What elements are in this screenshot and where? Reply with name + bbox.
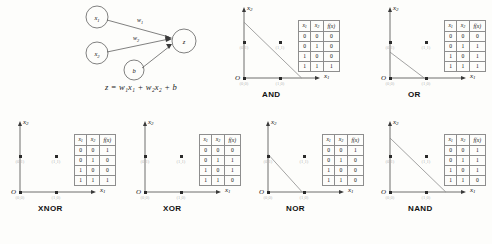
cell-x1: 1 — [323, 166, 335, 176]
y-axis-arrow — [266, 121, 270, 126]
table-row: 100 — [299, 52, 340, 62]
cell-x2: 0 — [457, 146, 469, 156]
cell-x2: 0 — [457, 52, 469, 62]
table-row: 101 — [200, 166, 241, 176]
x-axis-label: x1 — [348, 186, 354, 194]
th-fx: f(x) — [469, 21, 485, 32]
cell-x1: 1 — [445, 62, 457, 72]
table-row: 000 — [200, 146, 241, 156]
gate-panel-xor: x2x1O(0,0)(1,0)(0,1)(1,1)x1x2f(x)0000111… — [133, 120, 241, 230]
cell-x2: 1 — [335, 156, 347, 166]
th-x2: x2 — [212, 135, 224, 146]
table-row: 000 — [445, 32, 486, 42]
cell-x2: 0 — [335, 146, 347, 156]
cell-fx: 1 — [469, 62, 485, 72]
y-axis-arrow — [388, 7, 392, 12]
cell-fx: 1 — [469, 52, 485, 62]
table-row: 101 — [445, 52, 486, 62]
edge-label-w2: w2 — [133, 35, 140, 43]
formula-text: z = w₁x₁ + w₂x₂ + b — [105, 82, 177, 92]
data-point — [180, 155, 183, 158]
perceptron-formula: z = w₁x₁ + w₂x₂ + b — [62, 82, 220, 92]
x-axis-arrow — [339, 190, 344, 194]
cell-x2: 1 — [87, 156, 99, 166]
cell-fx: 0 — [323, 32, 339, 42]
data-point — [55, 191, 58, 194]
cell-x1: 0 — [299, 32, 311, 42]
cell-fx: 0 — [99, 156, 115, 166]
data-point — [267, 155, 270, 158]
y-axis-label: x2 — [393, 118, 399, 126]
cell-fx: 0 — [469, 176, 485, 186]
th-x2: x2 — [457, 21, 469, 32]
table-row: 011 — [445, 42, 486, 52]
cell-fx: 0 — [323, 42, 339, 52]
data-point — [279, 77, 282, 80]
table-row: 111 — [445, 62, 486, 72]
cell-fx: 1 — [469, 166, 485, 176]
th-x1: x1 — [200, 135, 212, 146]
table-row: 000 — [299, 32, 340, 42]
gate-panel-and: x2x1O(0,0)(1,0)(0,1)(1,1)x1x2f(x)0000101… — [232, 6, 340, 116]
cell-fx: 0 — [224, 176, 240, 186]
truth-table-xor: x1x2f(x)000011101110 — [199, 134, 241, 186]
data-point — [144, 155, 147, 158]
cell-x2: 0 — [212, 166, 224, 176]
th-x2: x2 — [87, 135, 99, 146]
cell-x1: 0 — [323, 146, 335, 156]
cell-x2: 1 — [457, 156, 469, 166]
y-axis-label: x2 — [393, 4, 399, 12]
x-axis-arrow — [91, 190, 96, 194]
cell-x1: 0 — [200, 146, 212, 156]
gate-caption: XOR — [163, 204, 271, 213]
data-point-label: (0,1) — [386, 159, 395, 164]
th-x2: x2 — [335, 135, 347, 146]
perceptron-graph: x1 x2 b z w1 w2 — [62, 2, 220, 84]
cell-fx: 1 — [99, 146, 115, 156]
x-axis-label: x1 — [470, 186, 476, 194]
data-point-label: (0,0) — [386, 81, 395, 86]
cell-fx: 0 — [347, 156, 363, 166]
data-point — [267, 191, 270, 194]
gate-caption: AND — [262, 90, 370, 99]
cell-x2: 1 — [457, 62, 469, 72]
cell-x2: 1 — [311, 62, 323, 72]
data-point — [303, 155, 306, 158]
th-fx: f(x) — [99, 135, 115, 146]
node-z-label: z — [182, 38, 186, 45]
cell-x1: 0 — [75, 156, 87, 166]
cell-x1: 1 — [75, 176, 87, 186]
gate-caption: OR — [408, 90, 492, 99]
table-row: 001 — [445, 146, 486, 156]
cell-fx: 0 — [99, 166, 115, 176]
data-point — [389, 77, 392, 80]
gate-panel-nor: x2x1O(0,0)(1,0)(0,1)(1,1)x1x2f(x)0010101… — [256, 120, 364, 230]
cell-x2: 0 — [311, 52, 323, 62]
cell-x1: 0 — [200, 156, 212, 166]
data-point — [144, 191, 147, 194]
data-point-label: (0,0) — [264, 195, 273, 200]
cell-x2: 1 — [212, 156, 224, 166]
data-point-label: (0,1) — [16, 159, 25, 164]
cell-fx: 1 — [99, 176, 115, 186]
cell-x2: 1 — [311, 42, 323, 52]
table-row: 001 — [75, 146, 116, 156]
data-point — [425, 155, 428, 158]
cell-x2: 0 — [87, 146, 99, 156]
x-axis-arrow — [216, 190, 221, 194]
cell-fx: 0 — [323, 52, 339, 62]
data-point-label: (1,0) — [300, 195, 309, 200]
data-point-label: (1,1) — [276, 45, 285, 50]
data-point — [55, 155, 58, 158]
data-point-label: (1,0) — [52, 195, 61, 200]
data-point-label: (1,1) — [300, 159, 309, 164]
x-axis-arrow — [315, 76, 320, 80]
x-axis-label: x1 — [100, 186, 106, 194]
cell-x1: 1 — [75, 166, 87, 176]
cell-x2: 1 — [335, 176, 347, 186]
x-axis-arrow — [461, 190, 466, 194]
table-row: 011 — [200, 156, 241, 166]
cell-fx: 0 — [224, 146, 240, 156]
th-x1: x1 — [445, 21, 457, 32]
decision-boundary — [244, 22, 302, 78]
